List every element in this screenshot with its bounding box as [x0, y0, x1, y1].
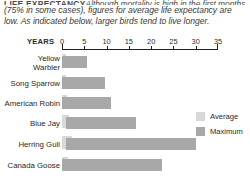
x-tick-label-15: 15 [125, 37, 133, 46]
legend-label-maximum: Maximum [210, 127, 243, 136]
category-label: Blue Jay [0, 120, 60, 129]
legend-label-average: Average [210, 112, 238, 121]
bar-maximum [66, 138, 196, 150]
bar-maximum [62, 159, 162, 171]
category-label: Yellow Warbler [12, 55, 60, 72]
legend-swatch-average [196, 112, 205, 121]
x-axis-label: YEARS [27, 37, 54, 46]
bar-maximum [62, 56, 87, 68]
life-expectancy-chart-figure: LIFE EXPECTANCYAlthough mortality is hig… [0, 0, 250, 179]
x-tick-label-25: 25 [169, 37, 177, 46]
category-label: American Robin [0, 100, 60, 109]
bar-maximum [66, 117, 136, 129]
chart-row: Song Sparrow [0, 75, 250, 95]
chart-legend: Average Maximum [196, 112, 243, 142]
legend-item-average: Average [196, 112, 243, 121]
legend-item-maximum: Maximum [196, 127, 243, 136]
bar-maximum [62, 77, 105, 89]
category-label: Canada Goose [0, 162, 60, 171]
intro-line-1: (75% in some cases), figures for average… [4, 5, 247, 16]
x-tick-label-20: 20 [147, 37, 155, 46]
legend-swatch-maximum [196, 127, 205, 136]
chart-row: Yellow Warbler [0, 54, 250, 74]
bar-chart: YEARS 05101520253035 Yellow WarblerSong … [0, 36, 250, 179]
bar-maximum [62, 97, 111, 109]
x-tick-label-5: 5 [82, 37, 86, 46]
x-tick-label-35: 35 [214, 37, 222, 46]
category-label: Herring Gull [0, 141, 60, 150]
category-label: Song Sparrow [0, 80, 60, 89]
intro-paragraph: LIFE EXPECTANCYAlthough mortality is hig… [4, 0, 247, 28]
intro-line-2: low. As indicated below, larger birds te… [4, 16, 247, 27]
x-tick-label-30: 30 [192, 37, 200, 46]
x-tick-label-10: 10 [102, 37, 110, 46]
chart-row: Canada Goose [0, 157, 250, 177]
